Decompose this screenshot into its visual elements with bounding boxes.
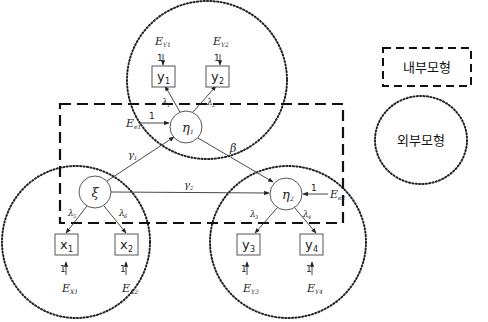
sem-path-diagram: 내부모형 외부모형 η 1 ξ η 2 y 1 y 2 [0,0,488,322]
observed-node-y2: y 2 [206,66,229,87]
fixed-loading-ex1: 1 [60,264,66,274]
svg-text:X1: X1 [69,288,78,295]
svg-text:2: 2 [219,77,224,86]
observed-node-y3: y 3 [237,234,260,255]
error-label-ey1: E Y1 [154,35,171,48]
svg-text:3: 3 [255,214,258,220]
svg-text:1: 1 [190,128,194,135]
coef-beta: β [229,142,236,155]
svg-text:E: E [242,282,251,295]
svg-text:y: y [242,237,250,252]
error-label-ex2: E X2 [121,282,138,295]
fixed-loading-ee1: 1 [149,111,155,121]
svg-text:E: E [61,282,70,295]
svg-text:E: E [154,35,163,48]
svg-text:E: E [212,35,221,48]
fixed-loading-ey3: 1 [241,264,247,274]
svg-text:2: 2 [211,102,215,108]
latent-node-xi: ξ [79,176,111,208]
svg-text:e2: e2 [338,194,346,201]
error-label-ey2: E Y2 [212,35,229,48]
observed-node-y4: y 4 [300,234,323,255]
coef-lambda1: λ 1 [161,97,170,108]
error-label-ey4: E Y4 [306,282,323,295]
svg-text:Y1: Y1 [163,41,171,48]
fixed-loading-ey4: 1 [306,264,312,274]
svg-text:Y4: Y4 [315,288,323,295]
svg-text:e1: e1 [134,123,141,130]
svg-text:x: x [60,237,68,252]
latent-node-eta1: η 1 [170,111,202,143]
legend-outer-model-label: 외부모형 [397,133,445,148]
svg-text:1: 1 [167,102,170,108]
path-xi-to-eta2 [111,192,269,193]
svg-text:E: E [306,282,315,295]
observed-node-y1: y 1 [152,66,175,87]
svg-text:y: y [211,69,219,84]
svg-text:3: 3 [250,245,255,254]
svg-text:1: 1 [134,155,137,161]
svg-text:y: y [157,69,165,84]
coef-lambda3: λ 3 [249,209,258,220]
svg-text:Y2: Y2 [221,41,229,48]
svg-text:η: η [182,120,190,135]
svg-text:1: 1 [68,245,73,254]
svg-text:β: β [229,142,236,155]
svg-text:2: 2 [128,245,133,254]
latent-node-eta2: η 2 [270,178,302,210]
fixed-loading-ey2: 1 [214,53,220,63]
svg-text:ξ: ξ [91,185,99,200]
svg-text:η: η [282,187,290,202]
coef-lambda5: λ 5 [67,208,76,219]
error-label-ee2: E e2 [329,188,346,201]
svg-text:4: 4 [313,245,318,254]
svg-text:E: E [121,282,130,295]
svg-text:y: y [305,237,313,252]
error-label-ey3: E Y3 [242,282,259,295]
svg-text:Y3: Y3 [251,288,259,295]
observed-node-x2: x 2 [115,234,138,255]
svg-text:x: x [120,237,128,252]
svg-text:2: 2 [189,185,193,191]
coef-lambda4: λ 4 [302,209,311,220]
svg-text:1: 1 [165,77,170,86]
svg-text:X2: X2 [129,288,138,295]
svg-text:5: 5 [73,213,76,219]
observed-node-x1: x 1 [55,234,78,255]
path-eta2-to-y3 [255,207,278,233]
fixed-loading-ee2: 1 [311,183,317,193]
error-label-ex1: E X1 [61,282,78,295]
fixed-loading-ey1: 1 [157,53,163,63]
coef-lambda6: λ 6 [118,208,128,219]
svg-text:E: E [125,117,134,130]
svg-text:6: 6 [124,213,128,219]
coef-gamma2: γ 2 [184,179,193,191]
fixed-loading-ex2: 1 [120,264,126,274]
svg-text:2: 2 [289,195,294,202]
coef-lambda2: λ 2 [206,97,215,108]
path-xi-to-eta1 [107,137,174,181]
svg-text:4: 4 [307,214,311,220]
error-label-ee1: E e1 [125,117,141,130]
coef-gamma1: γ 1 [128,149,137,161]
svg-text:E: E [329,188,338,201]
legend-inner-model-label: 내부모형 [403,60,451,75]
